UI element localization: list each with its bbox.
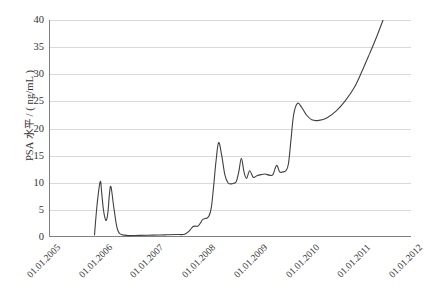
x-axis-tick-label: 01.01.2012 <box>376 243 425 292</box>
x-axis-tick-label: 01.01.2008 <box>169 243 218 292</box>
psa-line-chart: PSA 水平 / ( ng/mL ) 0510152025303540 01.0… <box>0 0 431 297</box>
x-axis-tick-label: 01.01.2011 <box>324 243 373 292</box>
x-axis-tick-label: 01.01.2005 <box>14 243 63 292</box>
x-axis-tick-labels: 01.01.200501.01.200601.01.200701.01.2008… <box>0 0 431 297</box>
x-axis-tick-label: 01.01.2006 <box>65 243 114 292</box>
x-axis-tick-label: 01.01.2007 <box>117 243 166 292</box>
x-axis-tick-label: 01.01.2010 <box>272 243 321 292</box>
x-axis-tick-label: 01.01.2009 <box>220 243 269 292</box>
